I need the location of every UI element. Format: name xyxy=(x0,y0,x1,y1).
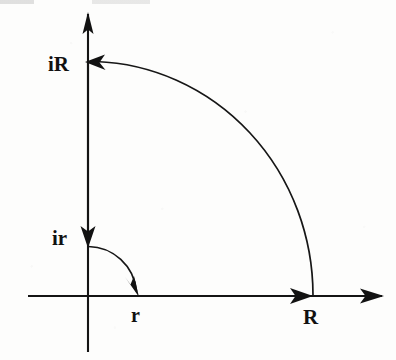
contour-arrowheads-group xyxy=(81,55,314,305)
axes-group xyxy=(28,14,382,352)
inner-arc-radius-r xyxy=(89,247,137,292)
label-ir: ir xyxy=(52,226,67,250)
label-iR: iR xyxy=(48,52,70,76)
complex-plane-contour-figure: iR ir r R xyxy=(0,0,396,360)
contour-diagram-canvas: iR ir r R xyxy=(0,0,396,360)
inner-arc-arrowhead-at-r xyxy=(125,276,139,297)
label-R: R xyxy=(303,305,319,329)
contour-path-group xyxy=(88,62,313,297)
axis-arrowheads-group xyxy=(83,12,385,304)
outer-arc-radius-R xyxy=(96,62,313,296)
label-r: r xyxy=(131,304,140,326)
